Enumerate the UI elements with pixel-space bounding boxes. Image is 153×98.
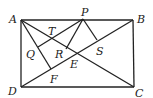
geometry-diagram: A B C D P T Q R S E F: [0, 0, 153, 98]
label-c: C: [135, 87, 144, 98]
label-d: D: [7, 85, 17, 98]
label-a: A: [8, 13, 17, 26]
label-s: S: [96, 45, 104, 58]
label-q: Q: [26, 48, 35, 61]
label-r: R: [54, 48, 63, 61]
segment-pr: [66, 19, 83, 49]
label-f: F: [49, 73, 58, 86]
label-p: P: [80, 6, 89, 19]
segment-af: [21, 20, 51, 69]
segment-bc: [133, 20, 134, 87]
segment-ps: [83, 19, 97, 40]
label-e: E: [69, 58, 78, 71]
label-b: B: [136, 13, 145, 26]
segments: [21, 19, 134, 87]
